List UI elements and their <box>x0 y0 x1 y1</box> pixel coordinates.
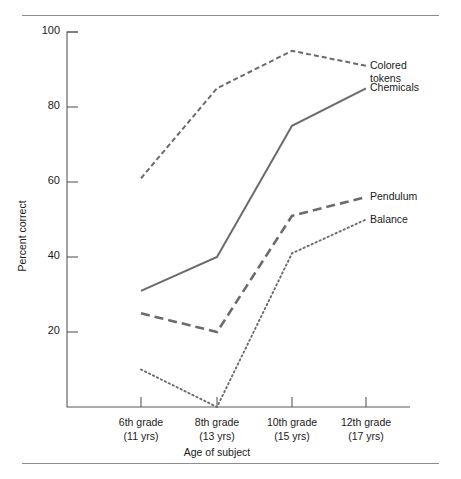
series-label-line: Colored <box>370 59 407 73</box>
x-tick-label: 6th grade(11 yrs) <box>99 415 183 443</box>
series-label-line: Chemicals <box>370 81 419 95</box>
data-series-group <box>141 51 366 407</box>
y-tick-label: 20 <box>30 324 60 336</box>
figure-container: Percent correct Age of subject 204060801… <box>0 0 461 479</box>
series-line-colored-tokens <box>141 51 366 179</box>
x-tick-label: 10th grade(15 yrs) <box>250 415 334 443</box>
x-tick-label: 12th grade(17 yrs) <box>324 415 408 443</box>
x-tick-label-age: (11 yrs) <box>99 429 183 443</box>
y-tick-label: 40 <box>30 249 60 261</box>
x-tick-label-grade: 8th grade <box>175 415 259 429</box>
series-line-chemicals <box>141 88 366 290</box>
y-axis-ticks <box>67 32 78 332</box>
series-line-pendulum <box>141 197 366 332</box>
y-tick-label: 60 <box>30 174 60 186</box>
y-tick-label: 80 <box>30 99 60 111</box>
x-tick-label: 8th grade(13 yrs) <box>175 415 259 443</box>
series-label-line: Balance <box>370 213 408 227</box>
x-tick-label-grade: 10th grade <box>250 415 334 429</box>
series-label-chemicals: Chemicals <box>370 81 419 95</box>
x-tick-label-age: (17 yrs) <box>324 429 408 443</box>
x-tick-label-age: (15 yrs) <box>250 429 334 443</box>
x-tick-label-grade: 6th grade <box>99 415 183 429</box>
series-label-balance: Balance <box>370 213 408 227</box>
x-axis-title: Age of subject <box>142 446 292 458</box>
y-tick-label: 100 <box>30 24 60 36</box>
y-axis-title: Percent correct <box>16 181 28 291</box>
x-tick-label-grade: 12th grade <box>324 415 408 429</box>
series-label-line: Pendulum <box>370 190 417 204</box>
series-label-pendulum: Pendulum <box>370 190 417 204</box>
x-tick-label-age: (13 yrs) <box>175 429 259 443</box>
series-line-balance <box>141 220 366 408</box>
x-axis-ticks <box>141 397 366 407</box>
